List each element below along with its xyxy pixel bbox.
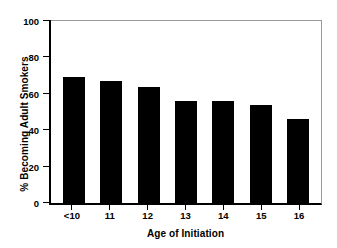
bar-slot bbox=[280, 21, 317, 203]
y-axis-tick-label: 0 bbox=[34, 198, 39, 209]
y-axis-tick: 20 bbox=[43, 166, 51, 167]
bar-series bbox=[51, 21, 321, 203]
bar bbox=[212, 101, 234, 203]
y-axis-tick: 100 bbox=[43, 20, 51, 21]
bar bbox=[175, 101, 197, 203]
bar bbox=[287, 119, 309, 203]
y-axis-tick-label: 80 bbox=[28, 52, 39, 63]
x-axis-tick-label: 11 bbox=[91, 210, 129, 224]
y-axis-tick-label: 40 bbox=[28, 125, 39, 136]
bar-chart-figure: % Becoming Adult Smokers 020406080100 <1… bbox=[0, 0, 337, 248]
bar-slot bbox=[92, 21, 129, 203]
x-axis-tick-label: 12 bbox=[129, 210, 167, 224]
bar bbox=[63, 77, 85, 203]
bar-slot bbox=[130, 21, 167, 203]
x-axis-tick-label: 14 bbox=[204, 210, 242, 224]
bar-slot bbox=[242, 21, 279, 203]
bar bbox=[250, 105, 272, 203]
x-axis-tick-label: 15 bbox=[242, 210, 280, 224]
y-axis-tick: 0 bbox=[43, 202, 51, 203]
bar-slot bbox=[55, 21, 92, 203]
x-axis-tick-label: 16 bbox=[280, 210, 318, 224]
y-axis-tick: 80 bbox=[43, 56, 51, 57]
y-axis-tick: 40 bbox=[43, 129, 51, 130]
bar bbox=[138, 87, 160, 203]
x-axis-title: Age of Initiation bbox=[49, 228, 322, 239]
plot-area: 020406080100 bbox=[49, 20, 322, 205]
y-axis-tick: 60 bbox=[43, 93, 51, 94]
bar-slot bbox=[205, 21, 242, 203]
y-axis-tick-label: 60 bbox=[28, 88, 39, 99]
bar-slot bbox=[167, 21, 204, 203]
x-axis-tick-label: <10 bbox=[53, 210, 91, 224]
y-axis-tick-label: 100 bbox=[23, 16, 39, 27]
bar bbox=[100, 81, 122, 203]
y-axis-tick-label: 20 bbox=[28, 161, 39, 172]
x-axis-tick-label: 13 bbox=[167, 210, 205, 224]
x-axis-tick-labels: <10111213141516 bbox=[49, 210, 322, 224]
